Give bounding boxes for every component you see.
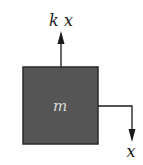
displacement-label: x xyxy=(126,142,135,161)
mass-label: m xyxy=(53,97,67,115)
spring-force-label: k x xyxy=(49,11,73,30)
mass-block: m xyxy=(23,67,98,144)
arrow-up-icon xyxy=(58,31,65,44)
arrow-down-icon xyxy=(129,129,136,142)
free-body-diagram: m k x x xyxy=(0,0,143,165)
displacement-arrow xyxy=(98,106,136,142)
spring-force-arrow xyxy=(58,31,65,67)
